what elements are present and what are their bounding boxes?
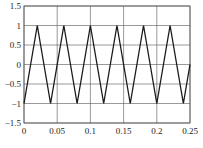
- triangle-wave-chart: 1.510.50−0.5−1−1.5 00.050.10.150.20.25: [0, 0, 203, 148]
- y-tick-label: 0.5: [10, 40, 22, 50]
- y-tick-label: 1.5: [10, 1, 22, 11]
- y-tick-label: −1.5: [5, 118, 22, 128]
- y-tick-label: 0: [17, 60, 22, 70]
- x-tick-label: 0.05: [49, 126, 65, 136]
- y-axis-tick-labels: 1.510.50−0.5−1−1.5: [5, 1, 22, 128]
- y-tick-label: −1: [11, 99, 21, 109]
- x-tick-label: 0.25: [182, 126, 198, 136]
- x-tick-label: 0: [22, 126, 27, 136]
- x-tick-label: 0.1: [85, 126, 96, 136]
- x-tick-label: 0.15: [116, 126, 132, 136]
- grid-lines: [24, 6, 190, 123]
- x-axis-tick-labels: 00.050.10.150.20.25: [22, 126, 199, 136]
- y-tick-label: −0.5: [5, 79, 22, 89]
- x-tick-label: 0.2: [151, 126, 162, 136]
- y-tick-label: 1: [17, 21, 22, 31]
